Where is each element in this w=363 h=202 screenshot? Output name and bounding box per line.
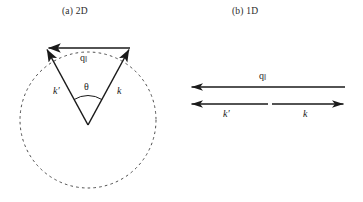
figure-root: (a) 2D (b) 1D q‖ k′ k θ — [0, 0, 363, 202]
angle-arc-theta — [74, 96, 102, 100]
fermi-circle-dashed — [20, 52, 156, 188]
label-k-2d: k — [117, 85, 121, 96]
vector-k-2d — [88, 50, 129, 126]
figure-vector-canvas — [0, 0, 363, 202]
label-k-1d: k — [303, 108, 307, 119]
panel-2d-group — [20, 48, 156, 188]
panel-1d-group — [192, 87, 346, 104]
label-k-prime-2d: k′ — [53, 85, 60, 96]
label-k-prime-1d: k′ — [223, 108, 230, 119]
label-q-subscript-2d: ‖ — [85, 55, 87, 64]
label-q-parallel-2d: q‖ — [80, 52, 87, 64]
label-q-subscript-1d: ‖ — [264, 73, 266, 82]
label-q-parallel-1d: q‖ — [259, 70, 266, 82]
label-theta-2d: θ — [84, 81, 89, 92]
